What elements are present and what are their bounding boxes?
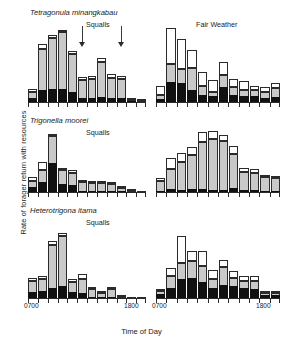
y-axis-label: Rate of forager return with resources (19, 58, 28, 288)
bar (28, 89, 37, 102)
x-tick (107, 103, 108, 107)
bar-segment-white (187, 251, 196, 261)
bar-segment-black (68, 185, 77, 192)
bar-segment-gray (97, 183, 106, 190)
bar-segment-black (198, 282, 207, 298)
bar-segment-black (68, 92, 77, 102)
bar-segment-gray (219, 75, 228, 87)
bar-segment-black (58, 286, 67, 298)
x-tick (166, 103, 167, 107)
bar (250, 86, 259, 102)
x-tick (270, 103, 271, 107)
bar (48, 134, 57, 192)
bar-segment-black (38, 182, 47, 192)
x-tick (58, 299, 59, 303)
x-tick (97, 103, 98, 107)
bar-segment-gray (208, 279, 217, 288)
bar (28, 278, 37, 298)
bar-segment-black (219, 285, 228, 298)
figure-root: Rate of forager return with resources Te… (0, 0, 283, 344)
arrow-shaft (121, 26, 122, 43)
x-tick (136, 193, 137, 197)
x-tick (28, 103, 29, 107)
bar (68, 170, 77, 192)
x-tick (208, 299, 209, 303)
bar-segment-gray (58, 236, 67, 286)
bar (187, 147, 196, 192)
bar-segment-gray (78, 279, 87, 293)
bar (97, 181, 106, 192)
bar (271, 83, 280, 102)
bar (97, 291, 106, 298)
bar (48, 241, 57, 298)
bar-segment-gray (166, 276, 175, 288)
x-tick (208, 103, 209, 107)
bar-segment-gray (38, 49, 47, 90)
bar (48, 35, 57, 102)
bar-segment-gray (239, 172, 248, 191)
bar-segment-white (229, 271, 238, 278)
bar-segment-gray (219, 267, 228, 285)
x-tick (197, 193, 198, 197)
bar-segment-gray (229, 154, 238, 189)
bar-segment-gray (107, 184, 116, 191)
x-axis-label: Time of Day (0, 327, 283, 336)
bar-segment-white (166, 268, 175, 277)
bar-segment-black (177, 83, 186, 102)
bar-segment-white (239, 81, 248, 90)
x-tick (58, 193, 59, 197)
x-tick (107, 299, 108, 303)
x-tick (249, 103, 250, 107)
bar-segment-white (38, 162, 47, 169)
bar (260, 87, 269, 102)
x-tick (187, 299, 188, 303)
bar-segment-black (177, 279, 186, 298)
bar-segment-gray (187, 155, 196, 189)
bar (58, 233, 67, 299)
bar-segment-white (229, 146, 238, 153)
bar-segment-white (156, 86, 165, 95)
bar (208, 80, 217, 102)
bar-segment-black (48, 163, 57, 192)
bar (78, 180, 87, 192)
bar (177, 236, 186, 298)
x-tick (145, 193, 146, 197)
x-tick (259, 193, 260, 197)
bar-segment-gray (107, 289, 116, 296)
bar-segment-gray (78, 80, 87, 98)
bar-segment-white (198, 72, 207, 87)
x-tick (145, 103, 146, 107)
bar-segment-black (229, 286, 238, 298)
bar-segment-gray (58, 170, 67, 184)
bar-segment-gray (48, 245, 57, 288)
bar-segment-black (38, 291, 47, 298)
bar (78, 274, 87, 298)
bar-segment-gray (219, 141, 228, 189)
squall-arrow-icon (79, 26, 86, 48)
bar-segment-gray (198, 266, 207, 282)
bar-segment-gray (38, 279, 47, 291)
x-tick (77, 299, 78, 303)
bar-segment-white (177, 153, 186, 162)
bar (58, 30, 67, 103)
bar-segment-black (187, 278, 196, 298)
bar (239, 81, 248, 102)
panel-heterotrigona-itama-fair: 0700 1800 (156, 206, 280, 312)
bar (271, 176, 280, 192)
x-tick (97, 299, 98, 303)
x-tick (67, 103, 68, 107)
bar (97, 58, 106, 102)
x-tick (77, 193, 78, 197)
bar (250, 169, 259, 192)
x-tick (279, 193, 280, 197)
x-tick (228, 103, 229, 107)
bar-segment-black (38, 90, 47, 102)
arrow-shaft (82, 26, 83, 43)
bar (88, 181, 97, 192)
x-tick (87, 299, 88, 303)
bar-segment-white (198, 251, 207, 267)
x-tick (166, 193, 167, 197)
x-tick (279, 299, 280, 303)
bar-segment-gray (88, 79, 97, 98)
x-tick (156, 103, 157, 107)
